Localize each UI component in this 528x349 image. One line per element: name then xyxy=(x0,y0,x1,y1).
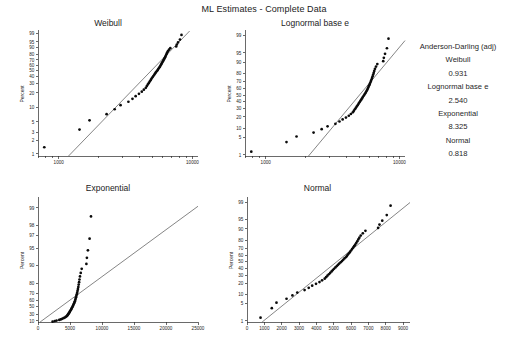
svg-text:98: 98 xyxy=(29,223,35,228)
svg-text:6000: 6000 xyxy=(346,326,357,331)
stat-value-exponential: 8.325 xyxy=(392,120,524,133)
svg-text:99: 99 xyxy=(29,31,35,36)
svg-text:70: 70 xyxy=(29,58,35,63)
svg-text:Percent: Percent xyxy=(226,85,232,103)
plot-normal: 1510203040506070809095990100020003000400… xyxy=(215,183,420,346)
svg-text:50: 50 xyxy=(238,259,244,264)
svg-text:5000: 5000 xyxy=(329,326,340,331)
svg-text:5000: 5000 xyxy=(65,326,76,331)
svg-text:5: 5 xyxy=(241,301,244,306)
panel-weibull: Weibull 12351020304050607080909599100010… xyxy=(8,18,208,178)
goodness-of-fit-legend: Anderson-Darling (adj) Weibull 0.931 Log… xyxy=(392,40,524,161)
svg-text:4000: 4000 xyxy=(311,326,322,331)
svg-text:Percent: Percent xyxy=(19,251,25,269)
svg-text:99: 99 xyxy=(238,200,244,205)
svg-text:20: 20 xyxy=(236,115,242,120)
svg-text:1: 1 xyxy=(32,152,35,157)
panel-lognormal: Lognormal base e 15102030405060708090959… xyxy=(215,18,415,178)
svg-text:3: 3 xyxy=(32,130,35,135)
svg-text:1000: 1000 xyxy=(54,160,65,165)
svg-text:50: 50 xyxy=(236,93,242,98)
svg-text:10000: 10000 xyxy=(186,160,199,165)
svg-text:25000: 25000 xyxy=(192,326,205,331)
svg-text:1: 1 xyxy=(241,319,244,324)
svg-text:60: 60 xyxy=(236,86,242,91)
page-title: ML Estimates - Complete Data xyxy=(0,4,528,14)
svg-text:60: 60 xyxy=(29,63,35,68)
svg-text:1: 1 xyxy=(239,153,242,158)
svg-text:40: 40 xyxy=(29,74,35,79)
stat-name-normal: Normal xyxy=(392,134,524,147)
svg-text:Percent: Percent xyxy=(228,251,234,269)
svg-text:60: 60 xyxy=(238,253,244,258)
svg-text:10: 10 xyxy=(236,126,242,131)
svg-text:90: 90 xyxy=(238,227,244,232)
plot-lognormal: 151020304050607080909599100010000Percent xyxy=(215,18,415,178)
svg-text:90: 90 xyxy=(29,45,35,50)
svg-text:10: 10 xyxy=(29,319,35,324)
svg-text:40: 40 xyxy=(236,99,242,104)
stat-value-normal: 0.818 xyxy=(392,147,524,160)
svg-text:30: 30 xyxy=(29,312,35,317)
svg-text:Percent: Percent xyxy=(19,85,25,103)
svg-text:90: 90 xyxy=(29,263,35,268)
plot-exponential: 1030506070809095979899050001000015000200… xyxy=(8,183,208,346)
svg-text:10000: 10000 xyxy=(393,160,406,165)
stat-value-weibull: 0.931 xyxy=(392,67,524,80)
panel-normal: Normal 151020304050607080909599010002000… xyxy=(215,183,420,346)
svg-text:2: 2 xyxy=(32,138,35,143)
svg-text:40: 40 xyxy=(238,266,244,271)
svg-text:80: 80 xyxy=(238,238,244,243)
svg-text:7000: 7000 xyxy=(363,326,374,331)
svg-text:60: 60 xyxy=(29,298,35,303)
svg-text:50: 50 xyxy=(29,68,35,73)
svg-text:70: 70 xyxy=(236,79,242,84)
svg-text:95: 95 xyxy=(238,217,244,222)
svg-text:5: 5 xyxy=(32,120,35,125)
svg-text:50: 50 xyxy=(29,304,35,309)
svg-text:95: 95 xyxy=(29,40,35,45)
svg-text:90: 90 xyxy=(236,60,242,65)
svg-text:97: 97 xyxy=(29,233,35,238)
svg-text:30: 30 xyxy=(236,106,242,111)
svg-text:99: 99 xyxy=(29,206,35,211)
svg-text:1000: 1000 xyxy=(261,160,272,165)
stats-header: Anderson-Darling (adj) xyxy=(392,40,524,53)
svg-text:0: 0 xyxy=(246,326,249,331)
svg-text:10: 10 xyxy=(29,105,35,110)
stat-name-exponential: Exponential xyxy=(392,107,524,120)
svg-text:20000: 20000 xyxy=(160,326,173,331)
svg-text:80: 80 xyxy=(29,281,35,286)
svg-text:30: 30 xyxy=(29,81,35,86)
stat-name-lognormal: Lognormal base e xyxy=(392,80,524,93)
svg-text:99: 99 xyxy=(236,33,242,38)
svg-text:30: 30 xyxy=(238,273,244,278)
svg-text:70: 70 xyxy=(238,246,244,251)
svg-text:9000: 9000 xyxy=(398,326,409,331)
panel-exponential: Exponential 1030506070809095979899050001… xyxy=(8,183,208,346)
svg-text:80: 80 xyxy=(236,71,242,76)
svg-text:8000: 8000 xyxy=(381,326,392,331)
svg-text:10000: 10000 xyxy=(96,326,109,331)
svg-text:5: 5 xyxy=(239,135,242,140)
svg-text:2000: 2000 xyxy=(277,326,288,331)
svg-text:3000: 3000 xyxy=(294,326,305,331)
svg-text:15000: 15000 xyxy=(128,326,141,331)
svg-text:70: 70 xyxy=(29,291,35,296)
stat-value-lognormal: 2.540 xyxy=(392,94,524,107)
svg-text:80: 80 xyxy=(29,52,35,57)
svg-text:10: 10 xyxy=(238,292,244,297)
svg-text:1000: 1000 xyxy=(259,326,270,331)
plot-weibull: 12351020304050607080909599100010000Perce… xyxy=(8,18,208,178)
svg-text:95: 95 xyxy=(29,246,35,251)
stat-name-weibull: Weibull xyxy=(392,53,524,66)
svg-text:95: 95 xyxy=(236,51,242,56)
svg-text:20: 20 xyxy=(29,91,35,96)
svg-text:20: 20 xyxy=(238,281,244,286)
svg-text:0: 0 xyxy=(37,326,40,331)
